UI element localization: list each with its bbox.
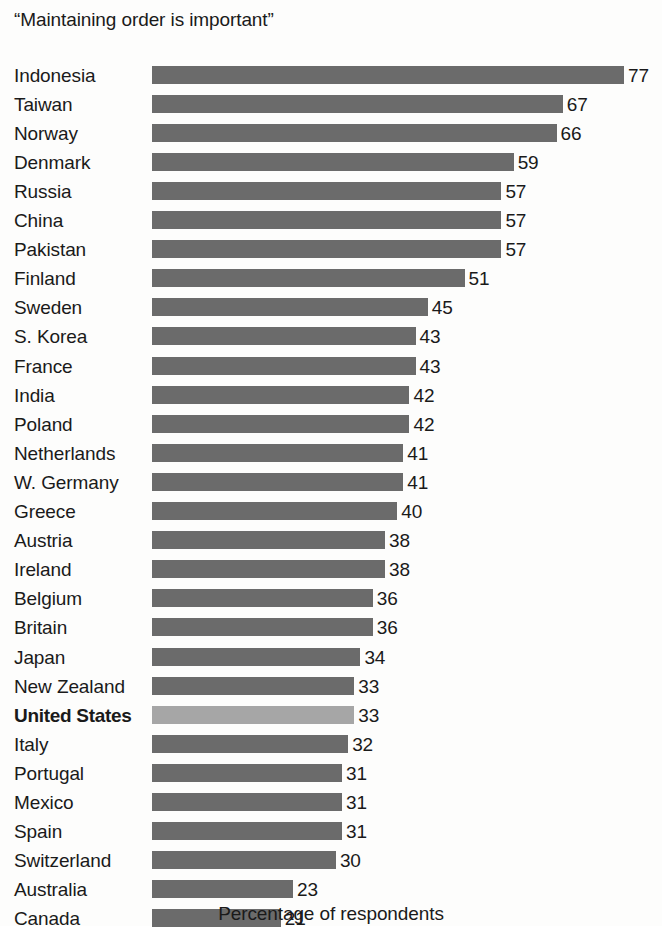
bar-value-label: 31 [346, 763, 367, 782]
bar-value-label: 34 [364, 647, 385, 666]
bar-row: Taiwan67 [0, 89, 662, 118]
bar-track [152, 357, 624, 375]
bar-track [152, 124, 624, 142]
bar-value-label: 57 [505, 181, 526, 200]
bar-value-label: 42 [413, 385, 434, 404]
bar-value-label: 38 [389, 531, 410, 550]
bar [152, 298, 428, 316]
bar-category-label: Pakistan [14, 240, 86, 259]
bar [152, 677, 354, 695]
bar-value-label: 40 [401, 502, 422, 521]
bar-value-label: 45 [432, 298, 453, 317]
bar-value-label: 42 [413, 414, 434, 433]
bar [152, 124, 557, 142]
bar-value-label: 51 [469, 269, 490, 288]
bar-category-label: Indonesia [14, 65, 96, 84]
bar-value-label: 43 [420, 327, 441, 346]
bar-category-label: Austria [14, 531, 72, 550]
bar-category-label: Portugal [14, 763, 84, 782]
bar-value-label: 33 [358, 705, 379, 724]
bar-track [152, 822, 624, 840]
bar-category-label: Denmark [14, 152, 90, 171]
x-axis-label: Percentage of respondents [0, 903, 662, 925]
bar-value-label: 33 [358, 676, 379, 695]
bar-category-label: Belgium [14, 589, 82, 608]
bar-track [152, 66, 624, 84]
bar-row: Sweden45 [0, 293, 662, 322]
bar-value-label: 30 [340, 851, 361, 870]
bar-category-label: Spain [14, 822, 62, 841]
bar-row: S. Korea43 [0, 322, 662, 351]
bar-value-label: 38 [389, 560, 410, 579]
bar-track [152, 735, 624, 753]
bar-category-label: Greece [14, 502, 76, 521]
bar-category-label: China [14, 211, 63, 230]
bar [152, 415, 409, 433]
bar [152, 473, 403, 491]
bar-row: Netherlands41 [0, 438, 662, 467]
bar-track [152, 182, 624, 200]
bar-row: Austria38 [0, 526, 662, 555]
bar [152, 648, 360, 666]
bar [152, 66, 624, 84]
bar-track [152, 851, 624, 869]
bar-value-label: 23 [297, 880, 318, 899]
bar-row: Indonesia77 [0, 60, 662, 89]
bar-track [152, 327, 624, 345]
bar-category-label: Poland [14, 414, 73, 433]
bar [152, 386, 409, 404]
bar-track [152, 706, 624, 724]
bar-track [152, 648, 624, 666]
bar-value-label: 41 [407, 443, 428, 462]
bar-track [152, 298, 624, 316]
bar-track [152, 764, 624, 782]
bar-value-label: 36 [377, 589, 398, 608]
bar-row: Russia57 [0, 176, 662, 205]
bar [152, 95, 563, 113]
bar-value-label: 31 [346, 822, 367, 841]
bar [152, 531, 385, 549]
bar [152, 153, 514, 171]
bar-value-label: 77 [628, 65, 649, 84]
bar-category-label: India [14, 385, 55, 404]
bar-highlighted [152, 706, 354, 724]
bar-row: Poland42 [0, 409, 662, 438]
bar-category-label: France [14, 356, 73, 375]
bar-value-label: 57 [505, 211, 526, 230]
bar-category-label: Switzerland [14, 851, 111, 870]
bar-row: India42 [0, 380, 662, 409]
bar-row: Japan34 [0, 642, 662, 671]
bar [152, 269, 465, 287]
bar [152, 560, 385, 578]
bar-category-label: Taiwan [14, 94, 73, 113]
bar-track [152, 386, 624, 404]
bar [152, 822, 342, 840]
bar-category-label: Italy [14, 734, 48, 753]
chart-plot-area: Indonesia77Taiwan67Norway66Denmark59Russ… [0, 60, 662, 895]
bar-category-label: New Zealand [14, 676, 125, 695]
bar-value-label: 36 [377, 618, 398, 637]
bar [152, 851, 336, 869]
bar-category-label: W. Germany [14, 472, 119, 491]
bar-track [152, 502, 624, 520]
bar-value-label: 67 [567, 94, 588, 113]
bar-track [152, 153, 624, 171]
bar-row: United States33 [0, 700, 662, 729]
bar-row: Australia23 [0, 875, 662, 904]
bar-track [152, 415, 624, 433]
bar [152, 444, 403, 462]
bar-value-label: 32 [352, 734, 373, 753]
bar-row: Belgium36 [0, 584, 662, 613]
bar-category-label: Sweden [14, 298, 82, 317]
bar-track [152, 444, 624, 462]
bar-value-label: 66 [561, 123, 582, 142]
bar-row: Portugal31 [0, 758, 662, 787]
bar-category-label: Britain [14, 618, 67, 637]
bar-category-label: Mexico [14, 793, 74, 812]
bar-value-label: 43 [420, 356, 441, 375]
bar [152, 182, 501, 200]
bar-row: Spain31 [0, 817, 662, 846]
bar-track [152, 95, 624, 113]
bar-row: Switzerland30 [0, 846, 662, 875]
